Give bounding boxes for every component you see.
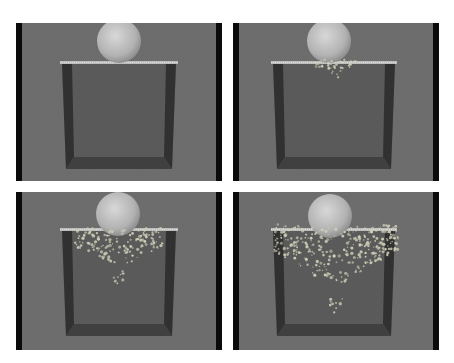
- box-floor: [277, 324, 391, 336]
- scene-svg: [233, 192, 439, 350]
- left-bar: [233, 192, 239, 350]
- box: [62, 63, 176, 169]
- left-bar: [16, 192, 22, 350]
- box: [273, 63, 395, 169]
- simulation-frame-1: [16, 23, 222, 181]
- left-bar: [233, 23, 239, 181]
- simulation-frame-2: [233, 23, 439, 181]
- right-bar: [216, 192, 222, 350]
- box-floor: [277, 157, 391, 169]
- box-floor: [66, 157, 172, 169]
- scene-svg: [16, 192, 222, 350]
- box-floor: [66, 324, 172, 336]
- right-bar: [433, 192, 439, 350]
- scene-svg: [233, 23, 439, 181]
- left-bar: [16, 23, 22, 181]
- simulation-frame-4: [233, 192, 439, 350]
- right-bar: [216, 23, 222, 181]
- right-bar: [433, 23, 439, 181]
- scene-svg: [16, 23, 222, 181]
- simulation-frame-3: [16, 192, 222, 350]
- sphere: [96, 192, 140, 236]
